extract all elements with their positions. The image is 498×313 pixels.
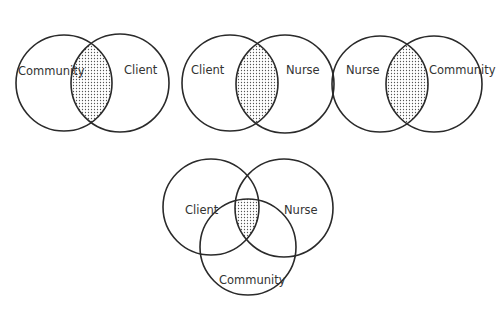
label-nurse: Nurse xyxy=(286,63,320,77)
label-nurse: Nurse xyxy=(346,63,380,77)
label-client: Client xyxy=(185,203,219,217)
label-nurse: Nurse xyxy=(284,203,318,217)
label-client: Client xyxy=(124,63,158,77)
label-community: Community xyxy=(429,63,496,77)
venn-client-nurse-community: Client Nurse Community xyxy=(163,159,333,295)
label-community: Community xyxy=(18,64,85,78)
label-client: Client xyxy=(191,63,225,77)
label-community: Community xyxy=(219,273,286,287)
venn-community-client: Community Client xyxy=(16,34,169,132)
venn-client-nurse: Client Nurse xyxy=(182,35,334,133)
venn-nurse-community: Nurse Community xyxy=(332,36,496,132)
venn-diagrams-canvas: Community Client Client Nurse Nurse Comm… xyxy=(0,0,498,313)
